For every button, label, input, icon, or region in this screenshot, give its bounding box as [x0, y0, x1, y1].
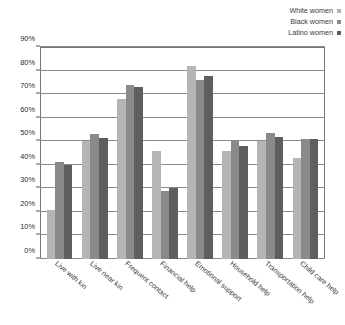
legend-item-3: Latino women: [288, 28, 341, 37]
grouped-bar-chart: White womenBlack womenLatino women 0%10%…: [0, 0, 345, 325]
bar-group: [288, 47, 323, 259]
y-tick-label: 80%: [20, 59, 35, 67]
x-label-cell: Live near kin: [77, 260, 112, 324]
bar: [222, 151, 231, 259]
x-label-cell: Household help: [218, 260, 253, 324]
y-tick-label: 70%: [20, 82, 35, 90]
legend-label: Latino women: [288, 28, 333, 37]
bar: [55, 162, 64, 259]
x-label-cell: Child care help: [288, 260, 323, 324]
x-label-cell: Emotional support: [183, 260, 218, 324]
y-tick-label: 50%: [20, 129, 35, 137]
x-label-cell: Transportation help: [253, 260, 288, 324]
bar: [231, 141, 240, 259]
x-label-cell: Live with kin: [42, 260, 77, 324]
y-tick-label: 10%: [20, 223, 35, 231]
bar: [90, 134, 99, 259]
x-label-cell: Frequent contact: [112, 260, 147, 324]
bar-group: [77, 47, 112, 259]
x-axis-label: Child care help: [299, 260, 341, 297]
y-tick-label: 30%: [20, 176, 35, 184]
bar: [152, 151, 161, 259]
y-tick-label: 90%: [20, 35, 35, 43]
legend-swatch-icon: [337, 9, 341, 13]
bar: [99, 138, 108, 259]
legend-label: White women: [289, 6, 333, 15]
bar: [187, 66, 196, 259]
x-label-cell: Financial help: [147, 260, 182, 324]
y-tick-label: 40%: [20, 153, 35, 161]
bar: [239, 146, 248, 259]
bar: [196, 80, 205, 259]
bar-group: [147, 47, 182, 259]
bar: [257, 141, 266, 259]
bar: [117, 99, 126, 259]
legend-swatch-icon: [337, 31, 341, 35]
legend-swatch-icon: [337, 20, 341, 24]
bar: [301, 139, 310, 259]
chart-legend: White womenBlack womenLatino women: [288, 6, 341, 37]
bar: [47, 210, 56, 259]
bar-group: [218, 47, 253, 259]
bar: [275, 137, 284, 259]
bar: [134, 87, 143, 259]
plot-area: 0%10%20%30%40%50%60%70%80%90%: [40, 47, 325, 259]
bar: [266, 133, 275, 259]
y-tick-label: 20%: [20, 200, 35, 208]
bar: [204, 76, 213, 259]
x-axis-labels: Live with kinLive near kinFrequent conta…: [40, 260, 325, 324]
bar-group: [112, 47, 147, 259]
bar-group: [253, 47, 288, 259]
bar: [161, 191, 170, 259]
legend-item-2: Black women: [290, 17, 341, 26]
y-tick-label: 0%: [24, 247, 35, 255]
bar: [310, 139, 319, 259]
bar-group: [183, 47, 218, 259]
bar-group: [42, 47, 77, 259]
bar: [64, 165, 73, 259]
legend-label: Black women: [290, 17, 333, 26]
legend-item-1: White women: [289, 6, 341, 15]
bar: [82, 141, 91, 259]
bars-layer: [40, 47, 325, 259]
bar: [293, 158, 302, 259]
bar: [169, 188, 178, 259]
bar: [126, 85, 135, 259]
y-tick-label: 60%: [20, 106, 35, 114]
